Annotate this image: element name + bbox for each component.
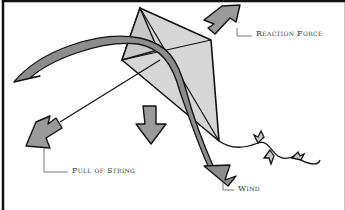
wind-label: Wind bbox=[238, 184, 260, 193]
weight-arrow bbox=[136, 106, 166, 144]
kite-tail bbox=[219, 131, 320, 164]
reaction-force-label: Reaction Force bbox=[256, 29, 323, 38]
reaction-force-arrow bbox=[204, 5, 240, 34]
pull-of-string-arrow bbox=[26, 116, 62, 148]
pull-of-string-label: Pull of String bbox=[72, 166, 135, 175]
kite-forces-diagram: Reaction Force Pull of String Wind bbox=[0, 0, 345, 210]
